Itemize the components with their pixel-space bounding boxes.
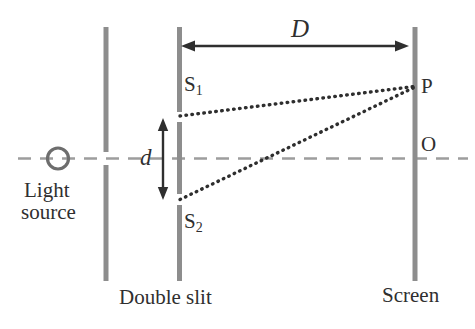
dimension-arrow-D [181,41,409,52]
label-light-source-line2: source [21,202,76,223]
label-light-source-line1: Light [24,180,70,201]
label-slit-s1-subscript: 1 [196,83,203,98]
label-slit-s1: S1 [184,74,203,98]
ray-s1-to-p [180,87,414,117]
label-point-p: P [421,76,433,97]
label-separation-d: d [140,146,152,169]
ray-s2-to-p [180,88,414,200]
label-slit-s2-subscript: 2 [196,220,203,235]
label-slit-s1-base: S [184,72,196,96]
label-slit-s2-base: S [184,209,196,233]
label-distance-D: D [291,16,309,41]
label-slit-s2: S2 [184,211,203,235]
double-slit-figure: D d S1 S2 P O Light source Double slit S… [0,0,475,329]
label-screen: Screen [382,285,439,306]
figure-canvas [0,0,475,329]
label-point-o: O [421,134,436,155]
label-double-slit: Double slit [119,287,212,308]
